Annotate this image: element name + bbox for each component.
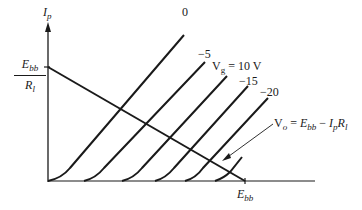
load-line-equation: Vo = Ebb − IpRl (274, 117, 347, 132)
curve-label-minus20: −20 (260, 86, 279, 98)
curve-vg-10 (122, 76, 227, 181)
grid-voltage-label: Vg = 10 V (212, 60, 261, 75)
diagram-canvas (0, 0, 362, 210)
pointer-arrow-icon (222, 153, 231, 161)
x-axis-label: Ebb (237, 188, 253, 203)
curve-label-minus15: −15 (239, 75, 258, 87)
pointer-line (225, 124, 273, 159)
curve-label-0: 0 (182, 6, 188, 18)
curve-vg-0 (48, 35, 184, 181)
fraction-bar (14, 75, 46, 76)
y-intercept-label: Ebb Rl (14, 57, 46, 94)
y-axis-label: Ip (43, 6, 52, 21)
curve-label-minus5: −5 (198, 48, 211, 60)
y-axis-arrow-icon (45, 22, 51, 32)
